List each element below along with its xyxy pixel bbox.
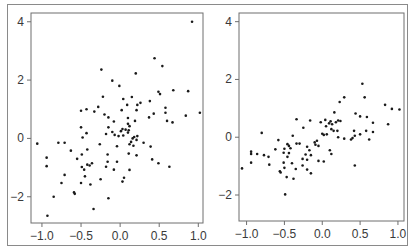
data-point: [126, 104, 129, 107]
data-point: [105, 133, 108, 136]
data-point: [365, 130, 368, 133]
data-point: [159, 93, 162, 96]
data-point: [107, 126, 110, 129]
data-point: [57, 141, 60, 144]
data-point: [185, 114, 188, 117]
data-point: [136, 104, 139, 107]
data-point: [372, 121, 375, 124]
data-point: [46, 214, 49, 217]
data-point: [63, 174, 66, 177]
data-point: [337, 136, 340, 139]
scatter-figure: −1.0−0.50.00.51.0420−2 −1.0−0.50.00.51.0…: [0, 0, 417, 252]
data-point: [161, 65, 164, 68]
data-point: [310, 154, 313, 157]
data-point: [283, 147, 286, 150]
y-tick-label: 4: [17, 15, 24, 29]
data-point: [331, 123, 334, 126]
data-point: [298, 142, 301, 145]
data-point: [322, 134, 325, 137]
data-point: [279, 171, 282, 174]
data-point: [92, 208, 95, 211]
data-point: [286, 156, 289, 159]
data-point: [295, 142, 298, 145]
data-point: [319, 121, 322, 124]
data-point: [336, 130, 339, 133]
data-point: [301, 164, 304, 167]
data-point: [121, 128, 124, 131]
data-point: [250, 161, 253, 164]
data-point: [329, 149, 332, 152]
data-point: [130, 141, 133, 144]
data-point: [52, 195, 55, 198]
data-point: [241, 167, 244, 170]
data-point: [294, 168, 297, 171]
data-point: [81, 153, 84, 156]
x-tick-label: −1.0: [30, 229, 54, 243]
y-tick-label: 4: [225, 15, 232, 29]
data-point: [291, 134, 294, 137]
data-point: [291, 162, 294, 165]
y-tick-label: 2: [225, 72, 232, 86]
data-point: [250, 153, 253, 156]
data-point: [372, 131, 375, 134]
data-point: [113, 168, 116, 171]
y-tick-label: −2: [10, 190, 24, 204]
data-point: [83, 168, 86, 171]
x-tick-label: −1.0: [235, 227, 259, 241]
data-point: [164, 111, 167, 114]
data-point: [86, 163, 89, 166]
data-point: [106, 153, 109, 156]
data-point: [93, 110, 96, 113]
data-point: [199, 111, 202, 114]
data-point: [80, 126, 83, 129]
data-point: [316, 139, 319, 142]
data-point: [332, 130, 335, 133]
data-point: [81, 136, 84, 139]
data-point: [86, 148, 89, 151]
data-point: [122, 134, 125, 137]
data-point: [317, 160, 320, 163]
data-point: [89, 183, 92, 186]
data-point: [343, 96, 346, 99]
data-point: [88, 164, 91, 167]
data-point: [127, 152, 130, 155]
data-point: [100, 68, 103, 71]
data-point: [149, 100, 152, 103]
data-point: [288, 145, 291, 148]
data-point: [45, 165, 48, 168]
data-point: [36, 142, 39, 145]
data-point: [128, 125, 131, 128]
data-point: [325, 133, 328, 136]
plot-area: [31, 13, 203, 223]
data-point: [324, 119, 327, 122]
data-point: [191, 20, 194, 23]
data-point: [277, 139, 280, 142]
data-point: [335, 121, 338, 124]
data-point: [81, 166, 84, 169]
data-point: [135, 154, 138, 157]
data-point: [285, 176, 288, 179]
data-point: [116, 160, 119, 163]
data-point: [118, 85, 121, 88]
data-point: [97, 106, 100, 109]
data-point: [314, 143, 317, 146]
scatter-panel-right: −1.0−0.50.00.51.0420−2: [218, 13, 406, 241]
data-point: [149, 145, 152, 148]
data-point: [353, 130, 356, 133]
data-point: [76, 158, 79, 161]
data-point: [295, 118, 298, 121]
x-tick-label: 0.5: [352, 227, 369, 241]
y-tick-label: 0: [17, 131, 24, 145]
data-point: [122, 98, 125, 101]
data-point: [260, 132, 263, 135]
data-point: [148, 116, 151, 119]
data-point: [135, 109, 138, 112]
data-point: [274, 148, 277, 151]
data-point: [283, 167, 286, 170]
data-point: [306, 168, 309, 171]
data-point: [123, 176, 126, 179]
data-point: [354, 112, 357, 115]
data-point: [157, 162, 160, 165]
data-point: [111, 79, 114, 82]
data-point: [134, 120, 137, 123]
